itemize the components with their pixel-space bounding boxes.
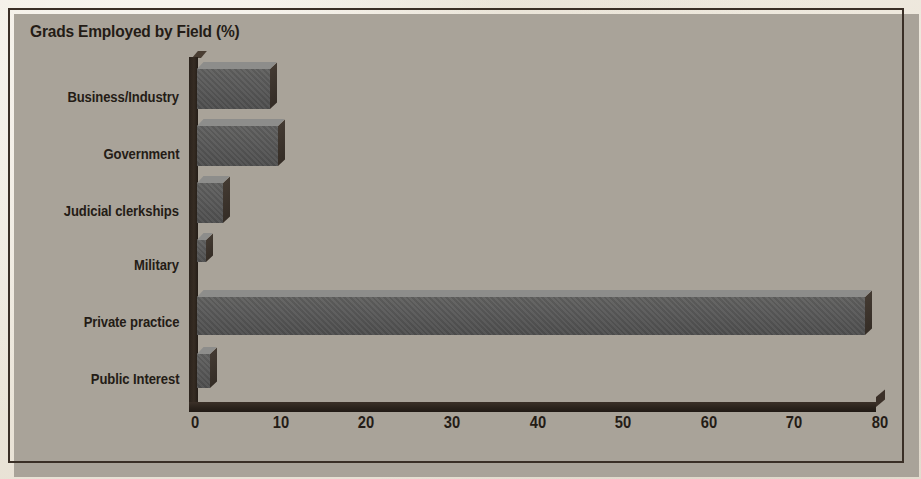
x-tick-label-30: 30 <box>424 414 479 432</box>
category-label-public-interest: Public Interest <box>90 371 179 387</box>
bar-side-face <box>278 119 285 166</box>
bar-side-face <box>223 176 230 223</box>
bar-private-practice <box>197 290 865 328</box>
x-tick-label-50: 50 <box>596 414 651 432</box>
bar-side-face <box>270 62 277 109</box>
bar-front-face <box>197 126 278 166</box>
bar-front-face <box>197 240 206 262</box>
bar-public-interest <box>197 347 210 381</box>
x-tick-label-80: 80 <box>852 414 907 432</box>
category-label-business-industry: Business/Industry <box>67 89 179 105</box>
bar-business-industry <box>197 62 270 102</box>
x-tick-label-10: 10 <box>253 414 308 432</box>
category-label-government: Government <box>103 146 179 162</box>
bar-top-face <box>197 119 285 126</box>
bar-front-face <box>197 354 210 388</box>
x-tick-label-40: 40 <box>510 414 565 432</box>
bar-front-face <box>197 183 223 223</box>
x-tick-label-60: 60 <box>681 414 736 432</box>
bar-side-face <box>865 290 872 335</box>
category-label-private-practice: Private practice <box>83 314 179 330</box>
chart-figure: Grads Employed by Field (%) Business/Ind… <box>0 0 921 479</box>
bar-top-face <box>197 62 276 69</box>
bar-military <box>197 233 206 255</box>
bar-judicial-clerkships <box>197 176 223 216</box>
x-tick-label-20: 20 <box>339 414 394 432</box>
bar-government <box>197 119 278 159</box>
category-label-judicial-clerkships: Judicial clerkships <box>64 203 179 219</box>
x-tick-label-0: 0 <box>167 414 222 432</box>
bar-front-face <box>197 297 865 335</box>
x-axis-line <box>189 402 876 412</box>
x-axis-right-face <box>876 389 885 407</box>
plot-area: Business/Industry Government Judicial cl… <box>0 0 921 479</box>
bar-side-face <box>210 347 217 388</box>
category-label-military: Military <box>134 257 179 273</box>
x-tick-label-70: 70 <box>767 414 822 432</box>
bar-top-face <box>197 290 871 297</box>
bar-front-face <box>197 69 270 109</box>
